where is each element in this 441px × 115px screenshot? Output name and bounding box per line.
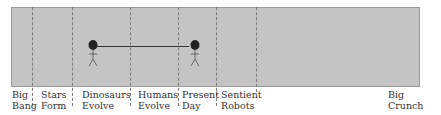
event-label-humans: HumansEvolve: [138, 89, 178, 111]
event-label-dinosaurs: DinosaursEvolve: [82, 89, 131, 111]
event-label-stars-form: StarsForm: [41, 89, 66, 111]
event-label-present-day: PresentDay: [182, 89, 219, 111]
stick-figure-icon: [188, 39, 202, 69]
stick-figure-icon: [86, 39, 100, 69]
divider-2: [72, 7, 73, 106]
event-label-sentient-robots: SentientRobots: [221, 89, 262, 111]
event-label-big-crunch: Big Crunch: [388, 89, 441, 111]
event-label-big-bang: BigBang: [12, 89, 37, 111]
divider-4: [178, 7, 179, 106]
divider-6: [256, 7, 257, 92]
time-travel-arrow: [96, 46, 189, 47]
